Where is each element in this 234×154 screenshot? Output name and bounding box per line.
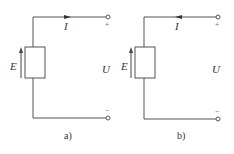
panel-b: E I U + − b) <box>120 15 221 142</box>
voltage-label-a: U <box>102 63 111 75</box>
current-arrow-right-icon <box>64 15 71 19</box>
panel-a: E I U + − a) <box>9 15 111 142</box>
emf-label-b: E <box>120 60 128 72</box>
emf-arrowhead-b <box>129 47 133 53</box>
voltage-label-b: U <box>212 63 221 75</box>
terminal-bottom-b <box>216 117 220 121</box>
terminal-bottom-a <box>106 116 110 120</box>
wire-top-a <box>33 17 107 47</box>
wire-top-b <box>144 17 217 47</box>
current-label-b: I <box>174 20 180 32</box>
plus-sign-b: + <box>215 21 219 28</box>
minus-sign-a: − <box>105 107 109 114</box>
caption-a: a) <box>64 130 72 142</box>
wire-bottom-b <box>144 78 217 119</box>
terminal-top-b <box>216 15 220 19</box>
emf-arrowhead-a <box>19 47 23 53</box>
circuit-diagram: E I U + − a) E I U + − b) <box>0 0 234 154</box>
source-box-b <box>135 47 155 78</box>
wire-bottom-a <box>33 78 107 118</box>
caption-b: b) <box>177 130 185 142</box>
plus-sign-a: + <box>105 21 109 28</box>
emf-label-a: E <box>9 60 17 72</box>
source-box-a <box>25 47 45 78</box>
minus-sign-b: − <box>215 108 219 115</box>
terminal-top-a <box>106 15 110 19</box>
current-arrow-left-icon <box>175 15 182 19</box>
current-label-a: I <box>63 20 69 32</box>
